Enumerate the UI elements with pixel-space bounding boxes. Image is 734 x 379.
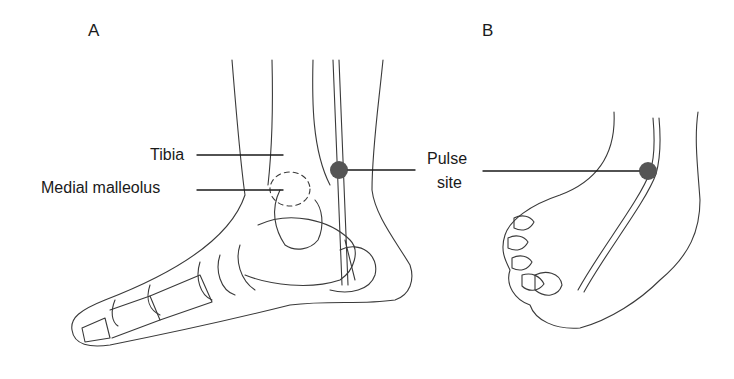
foot-anatomy-illustration — [0, 0, 734, 379]
pulse-site-dot-b — [639, 162, 657, 180]
foot-a-outline — [72, 60, 412, 346]
foot-b-vessels — [578, 118, 660, 292]
pulse-site-dot-a — [330, 161, 348, 179]
foot-b-outline — [503, 112, 700, 328]
